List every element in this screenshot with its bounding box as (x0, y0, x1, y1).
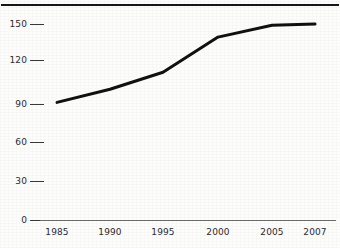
y-axis-tick-label: 90 (15, 100, 27, 109)
x-axis-tick-label: 1995 (143, 228, 183, 237)
y-axis-tick-mark (30, 142, 44, 143)
series-polyline (57, 24, 315, 102)
y-axis-tick-label: 150 (10, 20, 27, 29)
y-axis-tick-mark (30, 104, 44, 105)
y-axis-tick-label: 120 (10, 56, 27, 65)
x-axis-tick-label: 2000 (198, 228, 238, 237)
y-axis-tick-label: 0 (21, 216, 27, 225)
line-chart-figure: 0306090120150 198519901995200020052007 (0, 0, 340, 248)
x-axis-tick-label: 1985 (37, 228, 77, 237)
y-axis-tick-label: 30 (15, 177, 27, 186)
x-axis-baseline (40, 220, 336, 221)
plot-area: 0306090120150 198519901995200020052007 (0, 0, 340, 248)
x-axis-tick-label: 1990 (90, 228, 130, 237)
y-axis-tick-mark (30, 181, 44, 182)
x-axis-tick-label: 2007 (295, 228, 335, 237)
y-axis-tick-label: 60 (15, 138, 27, 147)
data-series-line (0, 0, 340, 248)
y-axis-tick-mark (30, 24, 44, 25)
x-axis-tick-label: 2005 (252, 228, 292, 237)
y-axis-tick-mark (30, 60, 44, 61)
